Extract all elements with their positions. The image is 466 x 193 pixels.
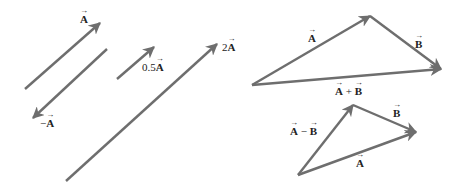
left-panel-arrow-neg-a (33, 49, 107, 118)
left-panel-label-neg-a: −A (40, 118, 54, 129)
sum-triangle-arrow-a-plus-b (252, 69, 441, 85)
difference-triangle-label-b: B (393, 108, 400, 119)
difference-triangle-label-a-b: A − B (290, 126, 317, 137)
sum-triangle-arrow-b (370, 16, 441, 69)
sum-triangle-label-a-plus-b: A + B (335, 86, 362, 97)
left-panel-label-2a: 2A (222, 42, 235, 53)
arrow-layer (0, 0, 466, 193)
left-panel-label-a: A (80, 14, 88, 25)
sum-triangle-label-b: B (415, 39, 422, 50)
sum-triangle-label-a: A (308, 33, 316, 44)
left-panel-label-0p5a: 0.5A (142, 62, 164, 73)
difference-triangle-label-a: A (356, 158, 364, 169)
difference-triangle-arrow-b (353, 105, 416, 132)
left-panel-arrow-a (25, 23, 100, 89)
vector-diagram: A−A0.5A2AABA + BA − BBA (0, 0, 466, 193)
